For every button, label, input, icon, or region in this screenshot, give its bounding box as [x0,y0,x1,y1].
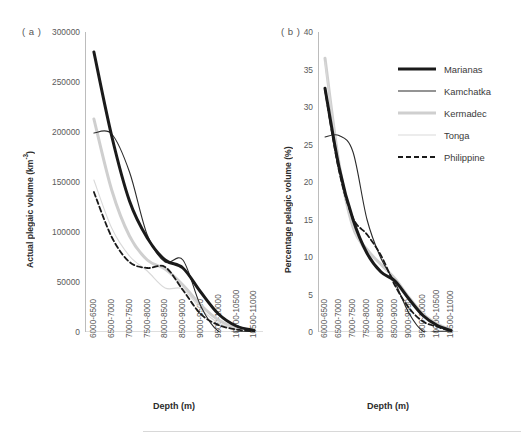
legend-swatch-tonga [397,135,437,140]
series-line-kermadec [94,119,254,331]
y-tick-label: 300000 [41,27,80,37]
panel-a-tag: ( a ) [22,26,41,37]
legend-swatch-marianas [397,69,437,74]
series-line-tonga [94,180,254,331]
legend-swatch-kamchatka [397,91,437,96]
y-tick-label: 25 [274,140,313,150]
y-tick-label: 35 [274,65,313,75]
legend: MarianasKamchatkaKermadecTongaPhilippine [397,58,517,168]
y-tick-label: 20 [274,177,313,187]
y-tick-label: 150000 [41,177,80,187]
y-tick-label: 40 [274,27,313,37]
panel-b-x-axis-title: Depth (m) [318,401,458,411]
y-tick-label: 15 [274,215,313,225]
legend-item-marianas[interactable]: Marianas [397,58,517,80]
panel-a-y-axis-title: Actual plegaic volume (km-3) [22,110,35,310]
legend-swatch-kermadec [397,113,437,118]
legend-item-kermadec[interactable]: Kermadec [397,102,517,124]
y-tick-label: 0 [41,327,80,337]
y-tick-label: 200000 [41,127,80,137]
legend-label: Kamchatka [444,86,491,97]
y-tick-label: 0 [274,327,313,337]
legend-item-philippine[interactable]: Philippine [397,146,517,168]
legend-item-kamchatka[interactable]: Kamchatka [397,80,517,102]
legend-label: Philippine [444,152,485,163]
footer-rule [143,431,521,432]
panel-a-x-axis-title: Depth (m) [85,401,263,411]
legend-item-tonga[interactable]: Tonga [397,124,517,146]
legend-label: Tonga [444,130,470,141]
panel-a-y-axis-title-text: Actual plegaic volume (km-3) [25,152,35,269]
legend-label: Marianas [444,64,483,75]
legend-label: Kermadec [444,108,487,119]
legend-swatch-philippine [397,157,437,162]
y-tick-label: 5 [274,290,313,300]
y-tick-label: 30 [274,102,313,112]
panel-b: ( b ) Percentage pelagic volume (%) 0510… [259,0,521,443]
panel-a: ( a ) Actual plegaic volume (km-3) 05000… [0,0,262,443]
y-tick-label: 10 [274,252,313,262]
y-tick-label: 50000 [41,277,80,287]
y-tick-label: 100000 [41,227,80,237]
y-tick-label: 250000 [41,77,80,87]
panel-a-plot-area [85,32,263,332]
